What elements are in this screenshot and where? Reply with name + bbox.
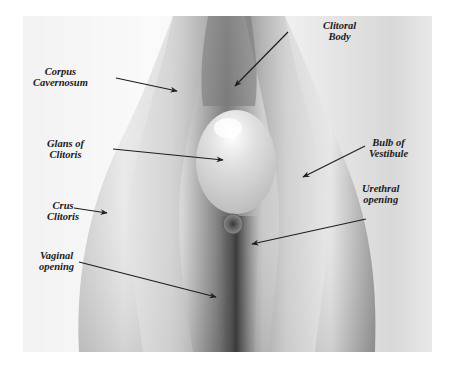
label-clitoral-body: Clitoral Body	[323, 20, 356, 42]
vaginal-opening-shape	[213, 216, 259, 352]
urethral-opening-shape	[223, 214, 243, 234]
label-corpus-cavernosum: Corpus Cavernosum	[33, 66, 88, 88]
label-urethral-opening: Urethral opening	[362, 183, 399, 205]
label-vaginal-opening: Vaginal opening	[39, 250, 74, 272]
label-bulb-of-vestibule: Bulb of Vestibule	[369, 137, 408, 159]
label-crus-clitoris: Crus Clitoris	[47, 200, 79, 222]
label-glans-of-clitoris: Glans of Clitoris	[47, 138, 84, 160]
